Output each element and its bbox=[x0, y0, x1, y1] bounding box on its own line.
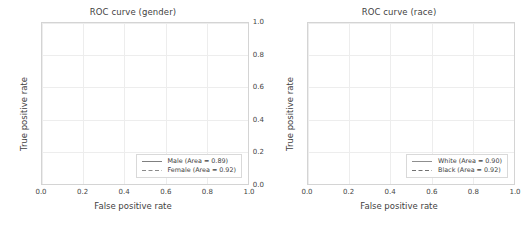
legend-swatch-solid bbox=[411, 158, 433, 165]
plot-area-gender: Male (Area = 0.89) Female (Area = 0.92) bbox=[41, 22, 249, 185]
panel-race: ROC curve (race) True positive rate bbox=[266, 0, 532, 227]
y-axis-label-gender: True positive rate bbox=[19, 54, 29, 174]
legend-swatch-dashed bbox=[411, 167, 433, 174]
legend-item[interactable]: White (Area = 0.90) bbox=[411, 158, 502, 165]
y-tick-label: 1.0 bbox=[253, 18, 264, 26]
legend-gender[interactable]: Male (Area = 0.89) Female (Area = 0.92) bbox=[136, 154, 242, 178]
x-tick-label: 1.0 bbox=[509, 188, 520, 196]
y-tick-label: 0.2 bbox=[253, 148, 264, 156]
x-tick-label: 0.2 bbox=[343, 188, 354, 196]
x-tick-label: 1.0 bbox=[243, 188, 254, 196]
panel-gender: ROC curve (gender) True positive rate bbox=[0, 0, 266, 227]
x-tick-label: 0.4 bbox=[119, 188, 130, 196]
panel-title-race: ROC curve (race) bbox=[266, 7, 532, 17]
legend-race[interactable]: White (Area = 0.90) Black (Area = 0.92) bbox=[406, 154, 508, 178]
legend-item[interactable]: Black (Area = 0.92) bbox=[411, 167, 502, 174]
y-tick-label: 0.0 bbox=[253, 181, 264, 189]
legend-label: Female (Area = 0.92) bbox=[168, 167, 236, 174]
legend-item[interactable]: Male (Area = 0.89) bbox=[141, 158, 236, 165]
legend-swatch-solid bbox=[141, 158, 163, 165]
roc-figure: ROC curve (gender) True positive rate bbox=[0, 0, 532, 227]
x-axis-label-race: False positive rate bbox=[266, 201, 532, 211]
legend-item[interactable]: Female (Area = 0.92) bbox=[141, 167, 236, 174]
legend-swatch-dashed bbox=[141, 167, 163, 174]
x-tick-label: 0.8 bbox=[202, 188, 213, 196]
y-tick-label: 0.4 bbox=[253, 116, 264, 124]
x-axis-label-gender: False positive rate bbox=[0, 201, 266, 211]
legend-label: White (Area = 0.90) bbox=[438, 158, 502, 165]
x-tick-label: 0.8 bbox=[468, 188, 479, 196]
x-tick-label: 0.6 bbox=[426, 188, 437, 196]
panel-title-gender: ROC curve (gender) bbox=[0, 7, 266, 17]
x-tick-label: 0.2 bbox=[77, 188, 88, 196]
x-tick-label: 0.0 bbox=[301, 188, 312, 196]
y-tick-label: 0.8 bbox=[253, 51, 264, 59]
y-axis-label-race: True positive rate bbox=[285, 54, 295, 174]
plot-area-race: White (Area = 0.90) Black (Area = 0.92) bbox=[307, 22, 515, 185]
y-tick-label: 0.6 bbox=[253, 83, 264, 91]
x-tick-label: 0.4 bbox=[385, 188, 396, 196]
legend-label: Male (Area = 0.89) bbox=[168, 158, 229, 165]
x-tick-label: 0.6 bbox=[160, 188, 171, 196]
legend-label: Black (Area = 0.92) bbox=[438, 167, 501, 174]
x-tick-label: 0.0 bbox=[35, 188, 46, 196]
